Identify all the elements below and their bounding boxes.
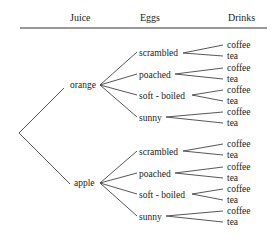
juice-apple: apple <box>74 178 95 188</box>
branch-drink <box>192 189 223 194</box>
header-drinks: Drinks <box>228 12 255 23</box>
drink: coffee <box>227 40 251 50</box>
branch-drink <box>175 167 223 173</box>
drink: coffee <box>227 107 251 117</box>
drink: tea <box>227 150 239 160</box>
egg-apple-softboiled: soft - boiled <box>139 190 185 200</box>
egg-orange-poached: poached <box>139 70 171 80</box>
branch-root-apple <box>19 133 70 184</box>
branch-drink <box>175 173 223 178</box>
branch-drink <box>175 74 223 79</box>
tree-diagram: Juice Eggs Drinks orange scrambled poach… <box>0 0 277 239</box>
drink: tea <box>227 195 239 205</box>
branch-drink <box>192 194 223 200</box>
branch-drink <box>183 53 223 56</box>
egg-apple-poached: poached <box>139 169 171 179</box>
drink: coffee <box>227 184 251 194</box>
branch-drink <box>183 151 223 155</box>
branch-drink <box>183 45 223 53</box>
egg-apple-sunny: sunny <box>139 212 162 222</box>
drink: coffee <box>227 63 251 73</box>
branch-drink <box>183 144 223 151</box>
branch-drink <box>166 216 223 222</box>
drink: coffee <box>227 162 251 172</box>
drink: coffee <box>227 139 251 149</box>
branch-drink <box>175 68 223 74</box>
drink: coffee <box>227 85 251 95</box>
drink: tea <box>227 173 239 183</box>
drink: coffee <box>227 206 251 216</box>
egg-orange-softboiled: soft - boiled <box>139 91 185 101</box>
header-eggs: Eggs <box>140 12 160 23</box>
branch-drink <box>166 117 223 123</box>
header-juice: Juice <box>70 12 91 23</box>
drink: tea <box>227 51 239 61</box>
juice-orange: orange <box>70 80 96 90</box>
branch-apple-sunny <box>100 183 137 216</box>
branch-root-orange <box>19 88 64 133</box>
branch-drink <box>192 95 223 101</box>
drink: tea <box>227 96 239 106</box>
branch-drink <box>166 211 223 216</box>
drink: tea <box>227 74 239 84</box>
drink: tea <box>227 217 239 227</box>
egg-apple-scrambled: scrambled <box>139 147 178 157</box>
branch-drink <box>192 90 223 95</box>
branch-orange-scrambled <box>100 52 137 85</box>
drink: tea <box>227 118 239 128</box>
egg-orange-scrambled: scrambled <box>139 48 178 58</box>
tree-diagram-svg: Juice Eggs Drinks orange scrambled poach… <box>0 0 277 239</box>
egg-orange-sunny: sunny <box>139 113 162 123</box>
branch-drink <box>166 112 223 117</box>
